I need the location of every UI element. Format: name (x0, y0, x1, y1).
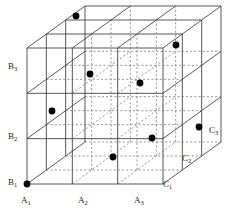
axis-label-subscript: 2 (85, 199, 88, 206)
axis-label-c2: C2 (182, 154, 191, 163)
hidden-grid-line (72, 142, 130, 184)
axis-label-a1: A1 (21, 196, 31, 205)
data-point: A3 B3 C3 (173, 42, 180, 49)
visible-grid-line (27, 6, 85, 48)
axis-label-subscript: 3 (141, 199, 144, 206)
visible-grid-line (27, 51, 85, 93)
figure-container: A1 B1 C1A1 B2 C2A1 B3 C3A2 B1 C2A2 B3 C1… (0, 0, 227, 213)
axis-label-c1: C1 (163, 180, 172, 189)
visible-grid-line (27, 142, 85, 184)
axis-label-subscript: 2 (188, 157, 191, 164)
axis-label-subscript: 1 (14, 181, 17, 188)
hidden-grid-line (118, 142, 176, 184)
data-point: A3 B2 C1 (149, 135, 156, 142)
visible-grid-line (27, 97, 85, 139)
data-point: A1 B2 C2 (49, 108, 56, 115)
visible-grid-line (72, 6, 130, 48)
data-point: A2 B1 C2 (110, 154, 117, 161)
axis-label-a2: A2 (78, 196, 88, 205)
axis-label-b3: B3 (8, 62, 17, 71)
data-point: A3 B1 C3 (196, 124, 203, 131)
axis-label-text: A (134, 195, 141, 205)
visible-grid-line (163, 6, 221, 48)
axis-label-subscript: 2 (14, 135, 17, 142)
visible-grid-line (118, 6, 176, 48)
axis-label-subscript: 1 (28, 199, 31, 206)
visible-grid-line (163, 51, 221, 93)
hidden-grid-line (72, 51, 130, 93)
axis-label-b2: B2 (8, 132, 17, 141)
data-point: A1 B1 C1 (24, 181, 31, 188)
solid-edge-group (27, 6, 221, 184)
visible-grid-line (163, 142, 221, 184)
axis-label-c3: C3 (209, 126, 218, 135)
hidden-grid-line (118, 51, 176, 93)
axis-label-a3: A3 (134, 196, 144, 205)
data-point: A1 B3 C3 (73, 13, 80, 20)
axis-label-subscript: 3 (215, 129, 218, 136)
axis-label-text: A (78, 195, 85, 205)
axis-label-subscript: 1 (169, 183, 172, 190)
data-point: A2 B3 C2 (137, 80, 144, 87)
axis-label-b1: B1 (8, 178, 17, 187)
axis-label-subscript: 3 (14, 65, 17, 72)
cube-diagram: A1 B1 C1A1 B2 C2A1 B3 C3A2 B1 C2A2 B3 C1… (0, 0, 227, 213)
data-point: A2 B3 C1 (87, 71, 94, 78)
hidden-grid-line (118, 97, 176, 139)
axis-label-text: A (21, 195, 28, 205)
hidden-grid-line (72, 97, 130, 139)
